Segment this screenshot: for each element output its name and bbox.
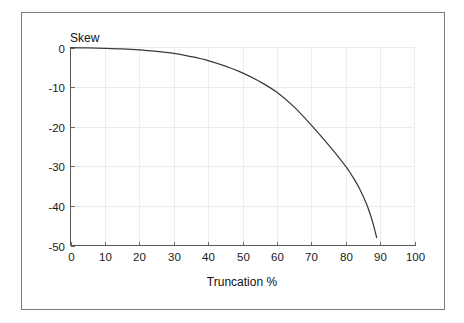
x-tick-label: 100: [406, 251, 425, 263]
y-tick-label: -10: [26, 82, 65, 94]
axis-lines: [71, 48, 415, 246]
x-tick-label: 50: [237, 251, 250, 263]
y-tick-label: -30: [26, 161, 65, 173]
y-tick-label: -20: [26, 122, 65, 134]
x-tick-label: 0: [68, 251, 74, 263]
chart-figure: 0102030405060708090100 0-10-20-30-40-50 …: [0, 0, 464, 323]
x-tick-label: 10: [99, 251, 112, 263]
x-tick-label: 30: [168, 251, 181, 263]
gridlines: [71, 48, 415, 246]
x-tick-label: 90: [374, 251, 387, 263]
y-tick-label: 0: [26, 43, 65, 55]
data-series-line: [71, 48, 377, 238]
x-tick-label: 20: [133, 251, 146, 263]
y-tick-label: -40: [26, 201, 65, 213]
y-tick-label: -50: [26, 241, 65, 253]
y-axis-title: Skew: [70, 31, 99, 45]
x-tick-label: 70: [305, 251, 318, 263]
x-tick-label: 40: [202, 251, 215, 263]
x-axis-title: Truncation %: [70, 275, 414, 289]
x-tick-label: 60: [271, 251, 284, 263]
x-tick-label: 80: [340, 251, 353, 263]
